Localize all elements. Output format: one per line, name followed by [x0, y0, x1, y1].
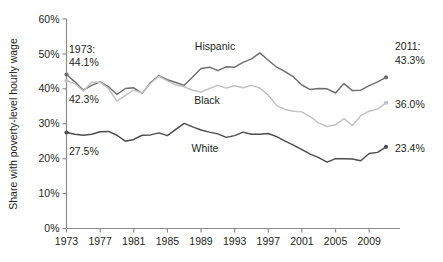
series-label-hispanic: Hispanic [195, 40, 235, 52]
x-tick-label: 1993 [223, 235, 247, 247]
x-tick-label: 2009 [358, 235, 382, 247]
y-tick-label: 0% [44, 222, 59, 234]
end-marker-white [384, 145, 388, 149]
x-tick-label: 1973 [55, 235, 79, 247]
series-line-black [67, 76, 387, 126]
y-tick-label: 10% [38, 187, 59, 199]
data-series-group [67, 53, 387, 162]
end-marker-hispanic [384, 75, 388, 79]
y-tick-label: 30% [38, 117, 59, 129]
x-tick-label: 1985 [156, 235, 180, 247]
x-tick-label: 2001 [290, 235, 314, 247]
series-label-black: Black [194, 94, 220, 106]
start-marker-white [64, 130, 68, 134]
annotation-left-year: 1973: [69, 43, 95, 55]
x-axis-ticks: 1973197719811985198919931997200120052009 [55, 229, 381, 247]
end-marker-black [384, 101, 388, 105]
y-axis-ticks: 0%10%20%30%40%50%60% [38, 13, 66, 235]
start-marker-black [64, 79, 68, 83]
y-axis-title: Share with poverty-level hourly wage [7, 38, 19, 210]
annotation-left-white: 27.5% [69, 145, 99, 157]
series-line-white [67, 123, 387, 162]
annotation-left-hispanic: 44.1% [69, 56, 99, 68]
y-tick-label: 20% [38, 152, 59, 164]
annotation-right-year: 2011: [395, 40, 421, 52]
y-tick-label: 40% [38, 82, 59, 94]
start-marker-hispanic [64, 72, 68, 76]
x-tick-label: 1981 [122, 235, 146, 247]
y-tick-label: 60% [38, 13, 59, 25]
y-axis-group: 0%10%20%30%40%50%60% [38, 13, 66, 235]
annotation-right-white: 23.4% [395, 142, 425, 154]
chart-canvas: 0%10%20%30%40%50%60% 1973197719811985198… [0, 0, 443, 262]
x-tick-label: 1989 [189, 235, 213, 247]
x-axis-group: 1973197719811985198919931997200120052009 [55, 229, 400, 247]
x-tick-label: 2005 [324, 235, 348, 247]
annotation-right-hispanic: 43.3% [395, 54, 425, 66]
series-label-white: White [192, 142, 219, 154]
annotation-left-black: 42.3% [69, 93, 99, 105]
x-tick-label: 1977 [88, 235, 112, 247]
annotation-right-black: 36.0% [395, 98, 425, 110]
poverty-wage-share-line-chart: 0%10%20%30%40%50%60% 1973197719811985198… [0, 0, 443, 262]
x-tick-label: 1997 [257, 235, 281, 247]
y-tick-label: 50% [38, 48, 59, 60]
